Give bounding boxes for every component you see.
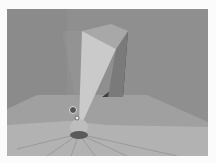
rendered-scene [7, 9, 208, 156]
fixture-base [70, 131, 88, 139]
fixture-lens [75, 116, 79, 120]
left-wall [7, 9, 67, 109]
fixture-knob [70, 107, 77, 114]
scene-illustration [7, 9, 208, 156]
